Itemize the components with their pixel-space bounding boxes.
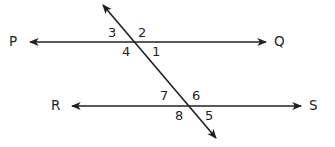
point-label-p: P: [9, 35, 17, 48]
angle-label-3: 3: [108, 26, 116, 39]
point-label-q: Q: [274, 35, 285, 48]
angle-label-8: 8: [175, 109, 183, 122]
point-label-s: S: [309, 99, 318, 112]
point-label-r: R: [51, 99, 60, 112]
transversal-line: [103, 5, 216, 138]
angle-label-4: 4: [122, 45, 130, 58]
angle-label-1: 1: [152, 45, 160, 58]
geometry-figure: P Q R S 3 2 4 1 7 6 8 5: [0, 0, 335, 147]
angle-label-5: 5: [205, 109, 213, 122]
angle-label-7: 7: [160, 89, 168, 102]
angle-label-6: 6: [192, 89, 200, 102]
figure-canvas: [0, 0, 335, 147]
angle-label-2: 2: [138, 26, 146, 39]
